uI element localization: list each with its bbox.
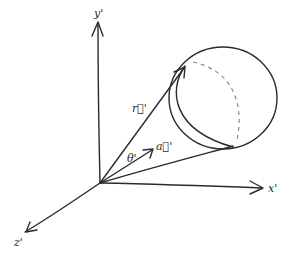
r-vector-label: r⃗': [132, 102, 147, 115]
r-vector: [100, 67, 185, 183]
sphere: [169, 47, 277, 149]
z-axis-label: z': [13, 236, 23, 249]
y-axis: [92, 22, 103, 183]
a-vector-label: a⃗': [156, 140, 172, 153]
coordinate-diagram: y' x' z' r⃗' a⃗' θ': [0, 0, 288, 261]
x-axis-label: x': [268, 182, 277, 195]
x-axis: [100, 181, 263, 194]
sphere-hidden-rim: [193, 62, 239, 140]
y-axis-label: y': [93, 7, 103, 20]
angle-label: θ': [127, 152, 137, 165]
z-axis: [25, 183, 100, 232]
